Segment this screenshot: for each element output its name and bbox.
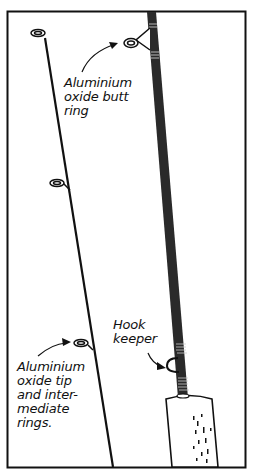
label-hook-keeper: Hook keeper [113,318,157,346]
label-butt-ring: Aluminium oxide butt ring [64,76,132,118]
label-tip-rings: Aluminium oxide tip and inter- mediate r… [17,360,85,430]
cork-grip [166,396,218,468]
arrowhead-hook-keeper [157,362,166,370]
arrow-tip-rings [38,343,66,356]
arrow-butt-ring [82,44,116,72]
arrowhead-tip-rings [62,338,71,346]
lower-ring-icon [74,340,93,351]
butt-ring-icon [124,28,150,50]
tip-ring-icon [31,30,45,37]
grip-ferrule [177,394,189,398]
